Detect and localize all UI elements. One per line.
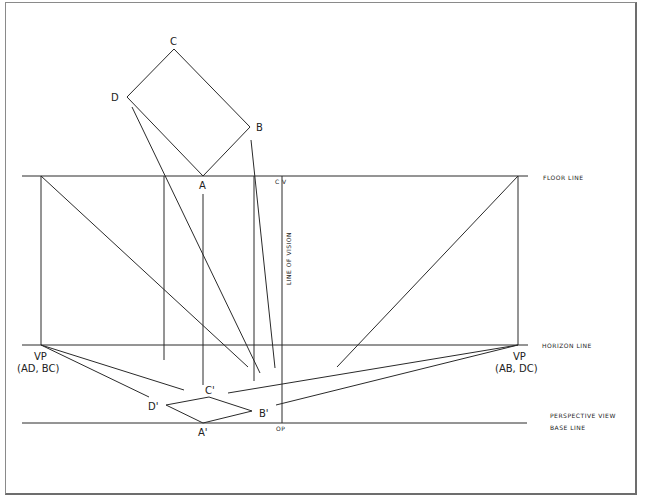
perspective-diagram: C D B A C' D' B' A' C V OP LINE OF VISIO…: [0, 0, 645, 502]
label-vp-left: VP: [34, 351, 47, 362]
label-floor-line: FLOOR LINE: [543, 174, 584, 181]
label-c-prime: C': [205, 385, 215, 396]
measuring-line-right: [337, 176, 518, 367]
label-c: C: [170, 36, 177, 47]
label-op: OP: [276, 425, 285, 432]
label-b: B: [256, 122, 263, 133]
vanishing-line-right-1: [228, 345, 518, 393]
label-a-prime: A': [198, 427, 208, 438]
label-d: D: [111, 92, 119, 103]
label-a: A: [199, 180, 206, 191]
label-vp-left-sub: (AD, BC): [17, 363, 59, 374]
label-line-of-vision: LINE OF VISION: [285, 232, 292, 285]
label-vp-right: VP: [513, 351, 526, 362]
label-perspective-view: PERSPECTIVE VIEW: [550, 412, 616, 419]
label-horizon-line: HORIZON LINE: [542, 342, 592, 349]
perspective-rectangle: [166, 397, 252, 423]
label-cv: C V: [275, 178, 287, 185]
vanishing-line-left-1: [41, 345, 184, 390]
label-b-prime: B': [259, 408, 269, 419]
measuring-line-left: [41, 176, 248, 367]
plan-rectangle: [127, 49, 250, 176]
projector-d: [132, 107, 260, 373]
label-base-line: BASE LINE: [550, 424, 586, 431]
label-d-prime: D': [148, 401, 158, 412]
projector-b: [251, 140, 275, 368]
label-vp-right-sub: (AB, DC): [495, 363, 538, 374]
vanishing-line-right-2: [276, 345, 518, 405]
